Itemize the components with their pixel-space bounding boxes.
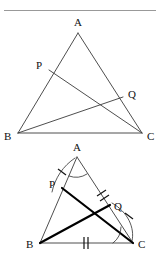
angle-arc-at-A-icon bbox=[69, 174, 87, 177]
vertex-label-C: C bbox=[147, 130, 154, 140]
vertex-label-C: C bbox=[138, 238, 145, 250]
segment-cevian-PC bbox=[49, 70, 142, 133]
segment-side-AB bbox=[18, 33, 78, 133]
point-label-Q: Q bbox=[128, 88, 136, 100]
segment-side-AC bbox=[77, 157, 133, 243]
point-label-P: P bbox=[49, 178, 55, 190]
figure-bottom-triangle-diagram: A B C P Q bbox=[0, 140, 161, 265]
segment-side-AC bbox=[78, 33, 142, 133]
vertex-label-A: A bbox=[73, 141, 81, 153]
header-horizontal-rule bbox=[4, 10, 156, 11]
point-label-Q: Q bbox=[114, 200, 122, 212]
tick-double-on-AQ-mark-2 bbox=[100, 195, 109, 201]
cropped-header-strip bbox=[0, 0, 161, 9]
point-label-P: P bbox=[36, 59, 42, 71]
segment-cevian-BQ-bold bbox=[40, 205, 110, 243]
congruence-arc-on-AP-icon bbox=[52, 158, 75, 192]
figure-page: A B C P Q A B C P bbox=[0, 0, 161, 265]
vertex-label-B: B bbox=[4, 130, 11, 140]
figure-top-triangle-diagram: A B C P Q bbox=[0, 12, 161, 140]
segment-cevian-BQ bbox=[18, 97, 123, 133]
vertex-label-A: A bbox=[74, 16, 82, 28]
vertex-label-B: B bbox=[26, 238, 33, 250]
